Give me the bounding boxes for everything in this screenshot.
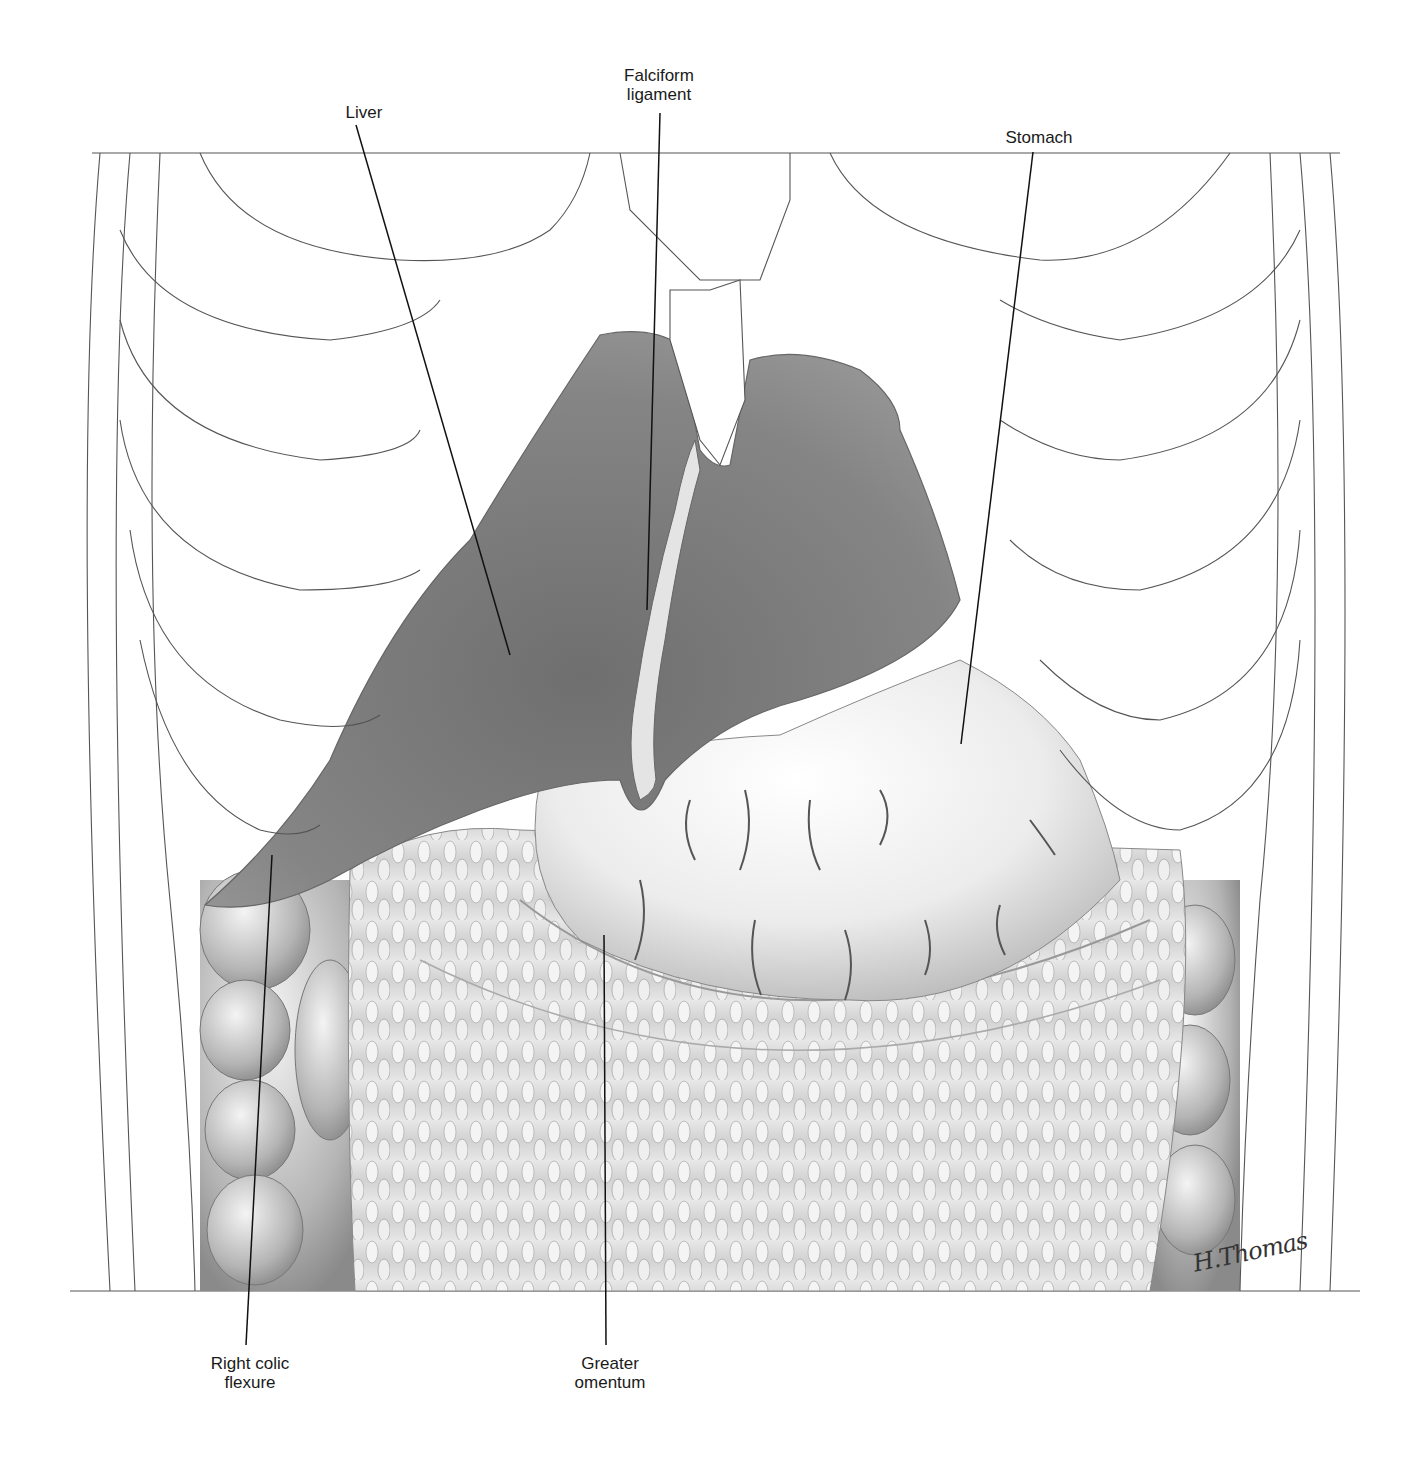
label-stomach: Stomach — [994, 128, 1084, 147]
leader-liver — [356, 125, 510, 655]
label-right-colic-flexure: Right colic flexure — [190, 1354, 310, 1392]
label-greater-omentum: Greater omentum — [560, 1354, 660, 1392]
leader-stomach — [961, 152, 1033, 744]
label-liver: Liver — [334, 103, 394, 122]
label-falciform-ligament: Falciform ligament — [604, 66, 714, 104]
